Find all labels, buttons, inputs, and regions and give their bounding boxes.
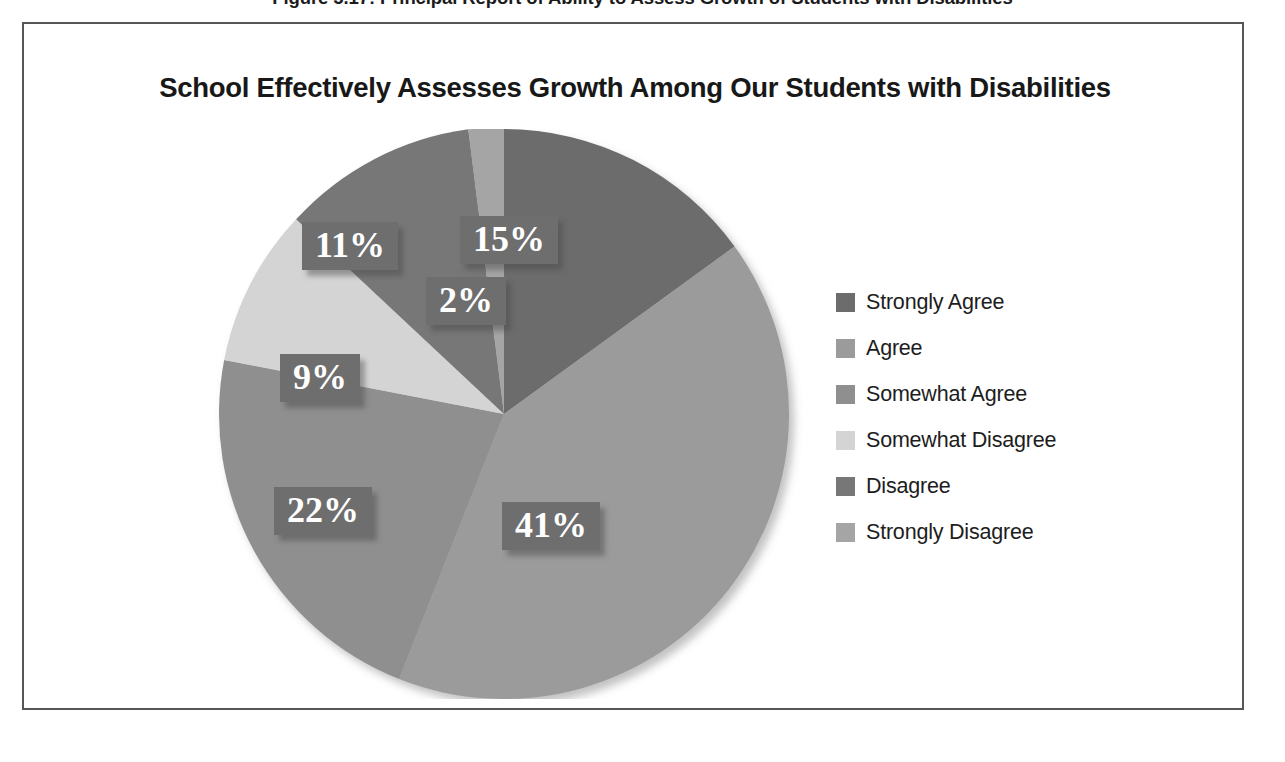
legend-label: Agree bbox=[866, 336, 922, 361]
legend-label: Somewhat Disagree bbox=[866, 428, 1056, 453]
legend-label: Strongly Disagree bbox=[866, 520, 1034, 545]
figure-caption: Figure 5.17: Principal Report of Ability… bbox=[0, 0, 1285, 9]
chart-frame: School Effectively Assesses Growth Among… bbox=[22, 22, 1244, 710]
legend-swatch-icon bbox=[836, 293, 855, 312]
pie-label-somewhat-disagree: 9% bbox=[280, 354, 360, 402]
legend-swatch-icon bbox=[836, 431, 855, 450]
legend-label: Strongly Agree bbox=[866, 290, 1004, 315]
pie-label-strongly-agree: 15% bbox=[460, 216, 558, 264]
legend-item-agree: Agree bbox=[836, 325, 1166, 371]
pie-label-somewhat-agree: 22% bbox=[274, 487, 372, 535]
legend-swatch-icon bbox=[836, 523, 855, 542]
legend-swatch-icon bbox=[836, 477, 855, 496]
legend-swatch-icon bbox=[836, 385, 855, 404]
legend-item-disagree: Disagree bbox=[836, 463, 1166, 509]
pie-label-disagree: 11% bbox=[302, 222, 398, 270]
pie-chart-svg bbox=[184, 129, 824, 699]
legend-item-strongly-agree: Strongly Agree bbox=[836, 279, 1166, 325]
legend-item-strongly-disagree: Strongly Disagree bbox=[836, 509, 1166, 555]
legend-label: Somewhat Agree bbox=[866, 382, 1027, 407]
chart-legend: Strongly Agree Agree Somewhat Agree Some… bbox=[836, 279, 1166, 555]
chart-title: School Effectively Assesses Growth Among… bbox=[24, 72, 1246, 104]
legend-label: Disagree bbox=[866, 474, 950, 499]
pie-label-strongly-disagree: 2% bbox=[426, 277, 506, 325]
legend-item-somewhat-disagree: Somewhat Disagree bbox=[836, 417, 1166, 463]
pie-chart bbox=[184, 129, 824, 699]
pie-label-agree: 41% bbox=[502, 502, 600, 550]
legend-swatch-icon bbox=[836, 339, 855, 358]
legend-item-somewhat-agree: Somewhat Agree bbox=[836, 371, 1166, 417]
